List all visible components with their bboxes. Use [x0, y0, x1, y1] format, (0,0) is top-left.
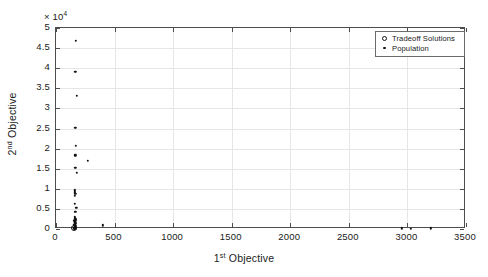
gridline-vertical — [115, 28, 116, 227]
x-axis-title: 1st Objective — [0, 252, 488, 264]
y-axis-tick-right — [460, 169, 464, 170]
y-axis-tick-label: 3.5 — [16, 81, 50, 92]
y-axis-tick — [56, 229, 60, 230]
data-point-population — [76, 172, 78, 174]
y-axis-tick-label: 4.5 — [16, 41, 50, 52]
x-axis-tick-top — [349, 28, 350, 32]
x-axis-tick — [407, 223, 408, 227]
x-axis-tick — [115, 223, 116, 227]
circle-open-marker-icon — [379, 36, 390, 41]
legend-label-population: Population — [392, 44, 429, 53]
chart-legend: Tradeoff Solutions Population — [375, 31, 465, 57]
y-axis-tick-label: 1.5 — [16, 162, 50, 173]
x-axis-tick-label: 3000 — [386, 231, 426, 242]
y-axis-tick-label: 0.5 — [16, 202, 50, 213]
y-axis-title-sup: nd — [6, 141, 14, 149]
data-point-population — [102, 224, 104, 226]
y-axis-tick-label: 2 — [16, 142, 50, 153]
y-axis-tick — [56, 68, 60, 69]
x-axis-tick-top — [115, 28, 116, 32]
x-axis-tick-label: 1500 — [211, 231, 251, 242]
y-axis-title-rest: Objective — [6, 92, 18, 141]
y-axis-tick — [56, 149, 60, 150]
y-axis-tick-right — [460, 129, 464, 130]
y-axis-tick-right — [460, 149, 464, 150]
y-axis-tick-right — [460, 68, 464, 69]
x-axis-tick-label: 2000 — [269, 231, 309, 242]
y-axis-tick-label: 1 — [16, 182, 50, 193]
data-point-population — [74, 71, 76, 73]
data-point-population — [400, 227, 402, 229]
x-axis-title-rest: Objective — [226, 252, 275, 264]
y-axis-tick-right — [460, 88, 464, 89]
x-axis-tick-top — [466, 28, 467, 32]
y-axis-tick-right — [460, 229, 464, 230]
y-axis-exponent-power: 4 — [64, 10, 68, 17]
y-axis-tick — [56, 169, 60, 170]
y-axis-tick — [56, 209, 60, 210]
legend-label-tradeoff-solutions: Tradeoff Solutions — [392, 34, 455, 43]
x-axis-tick — [466, 223, 467, 227]
y-axis-tick — [56, 129, 60, 130]
gridline-horizontal — [56, 169, 464, 170]
data-point-population — [74, 211, 76, 213]
legend-entry-tradeoff-solutions[interactable]: Tradeoff Solutions — [376, 34, 464, 44]
y-axis-tick — [56, 189, 60, 190]
y-axis-tick-right — [460, 108, 464, 109]
y-axis-tick-label: 5 — [16, 21, 50, 32]
data-point-population — [76, 95, 78, 97]
data-point-population — [430, 227, 432, 229]
gridline-horizontal — [56, 108, 464, 109]
gridline-vertical — [407, 28, 408, 227]
gridline-horizontal — [56, 68, 464, 69]
gridline-horizontal — [56, 149, 464, 150]
gridline-horizontal — [56, 129, 464, 130]
data-point-population — [74, 203, 76, 205]
x-axis-tick-top — [290, 28, 291, 32]
gridline-vertical — [349, 28, 350, 227]
x-axis-tick — [173, 223, 174, 227]
x-axis-tick-label: 0 — [35, 231, 75, 242]
gridline-horizontal — [56, 209, 464, 210]
data-point-population — [87, 159, 89, 161]
gridline-vertical — [173, 28, 174, 227]
y-axis-tick-right — [460, 189, 464, 190]
gridline-vertical — [232, 28, 233, 227]
y-axis-tick-right — [460, 209, 464, 210]
x-axis-tick-label: 3500 — [445, 231, 485, 242]
gridline-horizontal — [56, 189, 464, 190]
x-axis-tick-label: 2500 — [328, 231, 368, 242]
x-axis-tick — [290, 223, 291, 227]
y-axis-tick-label: 2.5 — [16, 122, 50, 133]
y-axis-tick — [56, 88, 60, 89]
data-point-population — [74, 40, 76, 42]
data-point-population — [74, 145, 76, 147]
gridline-vertical — [290, 28, 291, 227]
dot-marker-icon — [379, 47, 390, 49]
x-axis-tick — [232, 223, 233, 227]
x-axis-tick-top — [56, 28, 57, 32]
x-axis-tick-label: 1000 — [152, 231, 192, 242]
data-point-population — [74, 195, 76, 197]
x-axis-tick-top — [232, 28, 233, 32]
data-point-population — [74, 154, 76, 156]
legend-entry-population[interactable]: Population — [376, 44, 464, 54]
x-axis-tick-label: 500 — [94, 231, 134, 242]
data-point-population — [410, 227, 412, 229]
plot-area — [55, 27, 465, 228]
y-axis-tick — [56, 108, 60, 109]
y-axis-tick-label: 4 — [16, 61, 50, 72]
scatter-plot-figure: × 104 1st Objective 2nd Objective Tradeo… — [0, 0, 488, 277]
x-axis-tick — [349, 223, 350, 227]
y-axis-tick-label: 3 — [16, 101, 50, 112]
y-axis-tick — [56, 48, 60, 49]
x-axis-tick-top — [173, 28, 174, 32]
y-axis-tick-right — [460, 28, 464, 29]
gridline-horizontal — [56, 88, 464, 89]
x-axis-tick — [56, 223, 57, 227]
